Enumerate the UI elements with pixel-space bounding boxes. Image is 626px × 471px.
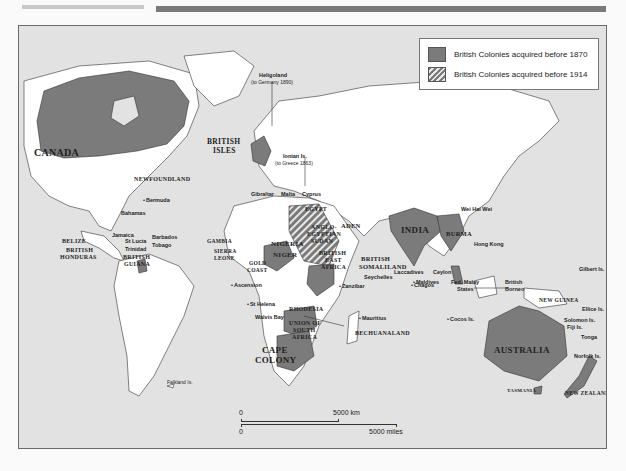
label-wei-hai-wei: Wei Hai Wei <box>461 206 492 212</box>
label-bermuda: Bermuda <box>143 197 170 203</box>
label-british-guiana-2: GUIANA <box>124 261 150 267</box>
scale-miles-end: 5000 miles <box>369 428 403 435</box>
scale-km-end: 5000 km <box>333 409 360 416</box>
label-walvis-bay: Walvis Bay <box>255 314 284 320</box>
label-british-borneo-1: British <box>505 279 522 285</box>
label-bechuanaland: BECHUANALAND <box>355 330 410 336</box>
label-australia: AUSTRALIA <box>494 346 550 355</box>
label-anglo-egyptian-sudan-2: EGYPTIAN <box>307 231 341 237</box>
header-rule-dark <box>156 6 606 12</box>
legend-item-before-1870: British Colonies acquired before 1870 <box>428 47 587 62</box>
label-gold-coast-2: COAST <box>247 268 267 274</box>
label-tasmania: TASMANIA <box>507 388 536 393</box>
india-colony <box>389 208 441 266</box>
label-norfolk: Norfolk Is. <box>574 353 601 359</box>
label-ionian-note: (to Greece 1863) <box>275 160 313 166</box>
label-ascension: Ascension <box>231 282 262 288</box>
label-belize: BELIZE <box>62 238 86 244</box>
header-rule-light <box>22 5 144 9</box>
label-fiji: Fiji Is. <box>567 324 583 330</box>
australia-colony <box>484 306 567 381</box>
legend-swatch-solid <box>428 47 446 62</box>
label-gilbert: Gilbert Is. <box>579 266 604 272</box>
madagascar <box>347 311 359 344</box>
british-empire-map: British Colonies acquired before 1870 Br… <box>18 25 607 449</box>
label-india: INDIA <box>401 226 429 235</box>
label-british-honduras-2: HONDURAS <box>60 254 97 260</box>
label-gibraltar: Gibraltar <box>251 191 274 197</box>
label-fed-malay-2: States <box>457 286 474 292</box>
label-zanzibar: Zanzibar <box>339 283 365 289</box>
label-union-sa-3: AFRICA <box>292 334 317 340</box>
label-heligoland-note: (to Germany 1890) <box>251 79 293 85</box>
label-tonga: Tonga <box>581 334 597 340</box>
label-solomon: Solomon Is. <box>564 317 595 323</box>
label-british-somaliland-1: BRITISH <box>361 256 390 263</box>
label-cocos: Cocos Is. <box>447 316 474 322</box>
label-british-guiana-1: BRITISH <box>123 254 150 260</box>
label-rhodesia: RHODESIA <box>289 306 323 312</box>
label-ceylon: Ceylon <box>433 269 451 275</box>
label-british-isles-1: BRITISH <box>207 138 240 146</box>
label-heligoland: Heligoland <box>259 72 287 78</box>
label-nigeria: NIGERIA <box>271 241 304 248</box>
label-trinidad: Trinidad <box>125 246 146 252</box>
label-british-isles-2: ISLES <box>213 147 236 155</box>
label-laccadives: Laccadives <box>394 269 424 275</box>
label-cape-colony-2: COLONY <box>255 356 296 365</box>
label-falkland: Falkland Is. <box>167 379 193 385</box>
label-malta: Malta <box>281 191 295 197</box>
label-british-east-africa-2: EAST <box>325 257 342 263</box>
label-canada: CANADA <box>34 148 79 158</box>
label-anglo-egyptian-sudan-3: SUDAN <box>311 238 333 244</box>
label-fed-malay-1: Fed. Malay <box>451 279 479 285</box>
south-america <box>114 254 194 396</box>
label-union-sa-1: UNION OF <box>289 320 321 326</box>
label-sierra-leone-1: SIERRA <box>214 249 237 255</box>
label-british-east-africa-3: AFRICA <box>321 264 346 270</box>
label-cape-colony-1: CAPE <box>262 346 288 355</box>
label-ellice: Ellice Is. <box>582 306 604 312</box>
label-maldives: Maldives <box>413 279 439 285</box>
legend-swatch-hatched <box>428 67 446 82</box>
label-bahamas: Bahamas <box>121 210 145 216</box>
label-aden: ADEN <box>341 223 361 230</box>
label-sierra-leone-2: LEONE <box>214 256 235 262</box>
label-gold-coast-1: GOLD <box>249 261 266 267</box>
label-egypt: EGYPT <box>305 206 327 212</box>
label-hong-kong: Hong Kong <box>474 241 504 247</box>
scale-miles-start: 0 <box>239 428 243 435</box>
label-niger: NIGER <box>273 252 297 259</box>
label-cyprus: Cyprus <box>302 191 321 197</box>
label-ionian: Ionian Is. <box>283 153 307 159</box>
scale-km-start: 0 <box>239 409 243 416</box>
label-new-zealand: NEW ZEALAND <box>565 391 607 397</box>
label-british-honduras-1: BRITISH <box>66 247 93 253</box>
label-st-helena: St Helena <box>247 301 275 307</box>
legend-label: British Colonies acquired before 1870 <box>454 50 587 59</box>
label-barbados: Barbados <box>152 234 177 240</box>
scale-miles-bar <box>241 424 397 427</box>
label-anglo-egyptian-sudan-1: ANGLO- <box>311 224 337 230</box>
label-newfoundland: NEWFOUNDLAND <box>134 176 190 182</box>
label-union-sa-2: SOUTH <box>293 327 316 333</box>
label-burma: BURMA <box>446 231 472 238</box>
label-tobago: Tobago <box>152 242 171 248</box>
label-british-borneo-2: Borneo <box>505 286 524 292</box>
label-st-lucia: St Lucia <box>125 238 146 244</box>
label-gambia: GAMBIA <box>207 239 232 245</box>
map-legend: British Colonies acquired before 1870 Br… <box>419 38 599 90</box>
scale-km-bar <box>241 419 339 422</box>
label-mauritius: Mauritius <box>359 315 386 321</box>
legend-item-before-1914: British Colonies acquired before 1914 <box>428 67 587 82</box>
legend-label: British Colonies acquired before 1914 <box>454 70 587 79</box>
label-seychelles: Seychelles <box>364 274 392 280</box>
label-new-guinea: NEW GUINEA <box>539 298 578 304</box>
label-british-east-africa-1: BRITISH <box>319 250 346 256</box>
